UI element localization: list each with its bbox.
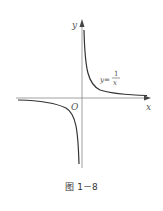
figure-caption: 图 1－8 (0, 180, 163, 193)
function-label-den: x (113, 79, 117, 87)
function-label-num: 1 (114, 70, 118, 78)
y-axis-arrow-icon (80, 19, 85, 27)
x-axis-arrow-icon (144, 96, 151, 101)
hyperbola-graph: y x O y= 1 x (0, 0, 163, 180)
origin-label: O (71, 102, 79, 112)
curve-branch-negative (18, 100, 79, 164)
function-label-lhs: y= (99, 76, 110, 84)
x-axis-label: x (146, 102, 151, 112)
y-axis-label: y (71, 20, 78, 30)
